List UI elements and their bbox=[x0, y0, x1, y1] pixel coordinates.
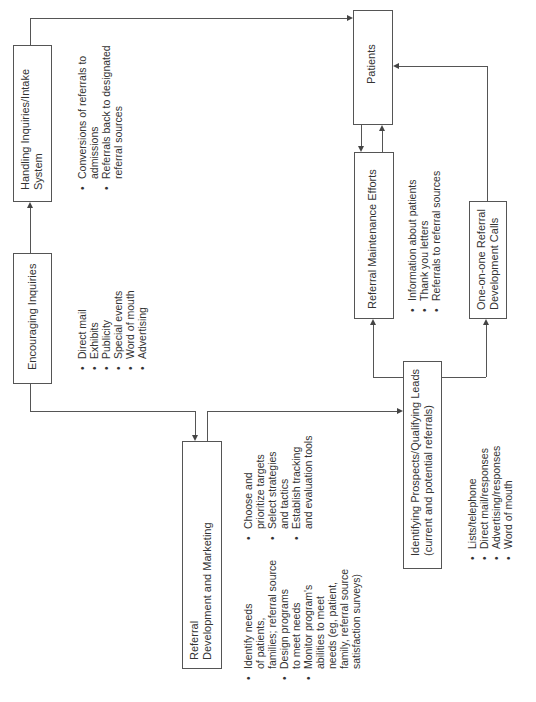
connector-patients-to-maintenance bbox=[361, 125, 362, 146]
title-line: System bbox=[32, 69, 45, 190]
title-line: Referral bbox=[188, 522, 201, 660]
identifying-prospects-title: Identifying Prospects/Qualifying Leads (… bbox=[409, 369, 435, 556]
handling-inquiries-title: Handling Inquiries/Intake System bbox=[19, 69, 45, 190]
bullet-item: Select strategies and tactics bbox=[266, 436, 290, 540]
connector-encouraging-to-handling bbox=[30, 208, 31, 253]
connector-oneonone-to-patients-v bbox=[487, 66, 488, 201]
referral-development-bullets-col1: Identify needs of patients, families; re… bbox=[242, 560, 362, 680]
title-line: Identifying Prospects/Qualifying Leads bbox=[409, 369, 422, 556]
bullet-item: Direct mail bbox=[76, 290, 88, 370]
arrowhead-icon bbox=[370, 319, 376, 325]
title-line: Development Calls bbox=[488, 209, 501, 310]
arrowhead-icon bbox=[192, 435, 198, 441]
bullet-item: Word of mouth bbox=[502, 446, 514, 560]
patients-title: Patients bbox=[365, 44, 378, 84]
bullet-item: Design programs to meet needs bbox=[278, 560, 302, 680]
title-line: One-on-one Referral bbox=[475, 209, 488, 310]
connector-encouraging-to-refdev-h bbox=[30, 411, 195, 412]
bullet-item: Advertising/responses bbox=[490, 446, 502, 560]
connector-handling-to-patients-v bbox=[30, 18, 31, 45]
connector-refdev-to-identifying-v bbox=[207, 411, 208, 441]
connector-handling-to-patients-h bbox=[30, 18, 347, 19]
bullet-item: Referrals back to designatedreferral sou… bbox=[100, 45, 124, 190]
connector-refdev-to-identifying-h bbox=[207, 411, 397, 412]
title-line: Development and Marketing bbox=[201, 522, 214, 660]
handling-bullets: Conversions of referrals toadmissions Re… bbox=[76, 45, 124, 190]
bullet-item: Publicity bbox=[100, 290, 112, 370]
bullet-item: Identify needs of patients, families; re… bbox=[242, 560, 278, 680]
bullet-item: Advertising bbox=[136, 290, 148, 370]
arrowhead-icon bbox=[393, 63, 399, 69]
title-line: (current and potential referrals) bbox=[422, 369, 435, 556]
connector-identifying-to-maintenance-v bbox=[373, 325, 374, 377]
connector-oneonone-to-patients-h bbox=[399, 66, 487, 67]
connector-maintenance-to-patients bbox=[382, 131, 383, 152]
bullet-item: Information about patients bbox=[406, 171, 418, 312]
bullet-item: Conversions of referrals toadmissions bbox=[76, 45, 100, 190]
bullet-item: Thank you letters bbox=[418, 171, 430, 312]
title-line: Handling Inquiries/Intake bbox=[19, 69, 32, 190]
maintenance-bullets: Information about patients Thank you let… bbox=[406, 171, 442, 312]
referral-maintenance-title: Referral Maintenance Efforts bbox=[366, 169, 379, 309]
referral-development-bullets-col2: Choose and prioritize targets Select str… bbox=[242, 436, 314, 540]
connector-identifying-to-oneonone-h bbox=[442, 377, 486, 378]
referral-development-title: Referral Development and Marketing bbox=[188, 522, 214, 660]
bullet-item: Word of mouth bbox=[124, 290, 136, 370]
connector-encouraging-to-refdev-v2 bbox=[195, 411, 196, 435]
arrowhead-icon bbox=[397, 408, 403, 414]
encouraging-bullets: Direct mail Exhibits Publicity Special e… bbox=[76, 290, 148, 370]
arrowhead-icon bbox=[27, 202, 33, 208]
identifying-bullets: Lists/telephone Direct mail/responses Ad… bbox=[466, 446, 514, 560]
arrowhead-icon bbox=[379, 125, 385, 131]
arrowhead-icon bbox=[358, 146, 364, 152]
arrowhead-icon bbox=[347, 15, 353, 21]
bullet-item: Referrals to referral sources bbox=[430, 171, 442, 312]
bullet-item: Special events bbox=[112, 290, 124, 370]
connector-identifying-to-maintenance-h bbox=[373, 377, 403, 378]
bullet-item: Monitor program's abilities to meet need… bbox=[302, 560, 362, 680]
connector-identifying-to-oneonone-v bbox=[486, 325, 487, 377]
bullet-item: Exhibits bbox=[88, 290, 100, 370]
encouraging-inquiries-title: Encouraging Inquiries bbox=[26, 264, 39, 370]
bullet-item: Establish tracking and evaluation tools bbox=[290, 436, 314, 540]
arrowhead-icon bbox=[483, 319, 489, 325]
title-line: Patients bbox=[365, 44, 378, 84]
title-line: Encouraging Inquiries bbox=[26, 264, 39, 370]
bullet-item: Direct mail/responses bbox=[478, 446, 490, 560]
title-line: Referral Maintenance Efforts bbox=[366, 169, 379, 309]
one-on-one-calls-title: One-on-one Referral Development Calls bbox=[475, 209, 501, 310]
connector-encouraging-to-refdev-v1 bbox=[30, 384, 31, 411]
bullet-item: Lists/telephone bbox=[466, 446, 478, 560]
bullet-item: Choose and prioritize targets bbox=[242, 436, 266, 540]
